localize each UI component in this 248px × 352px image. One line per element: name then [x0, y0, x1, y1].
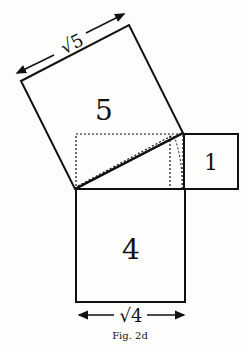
figure-caption: Fig. 2d: [112, 330, 148, 341]
square-4-label: 4: [122, 233, 140, 266]
pythagoras-diagram: 5 √5 1 4 √4 Fig. 2d: [0, 0, 248, 352]
square-5-label: 5: [95, 94, 113, 127]
sqrt5-label: √5: [57, 29, 87, 58]
sqrt5-arrow-left: [17, 55, 54, 73]
hypotenuse: [75, 133, 183, 189]
dotted-diagonal: [78, 135, 173, 186]
dotted-arc: [174, 136, 182, 189]
square-1-label: 1: [204, 150, 218, 175]
sqrt4-label: √4: [120, 305, 143, 326]
